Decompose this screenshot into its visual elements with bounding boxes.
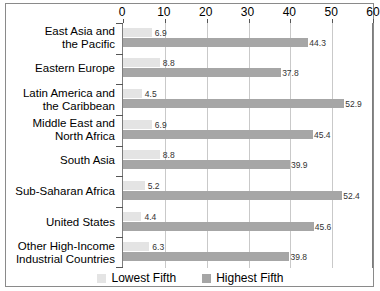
bar-row: South Asia8.839.9 <box>6 146 375 177</box>
x-axis-labels: 0102030405060 <box>6 4 375 22</box>
category-label-line: North Africa <box>0 130 115 143</box>
bar-value-highest-fifth: 52.4 <box>343 192 360 201</box>
bar-pair: 6.339.8 <box>122 237 373 268</box>
bar-value-lowest-fifth: 4.5 <box>145 90 157 99</box>
bar-pair: 8.837.8 <box>122 54 373 85</box>
category-label-line: Other High-Income <box>0 240 115 253</box>
category-label-line: Latin America and <box>0 87 115 100</box>
bar-pair: 5.252.4 <box>122 176 373 207</box>
bar-rows: East Asia andthe Pacific6.944.3Eastern E… <box>6 23 375 268</box>
bar-value-lowest-fifth: 6.9 <box>155 29 167 38</box>
category-axis-tick <box>116 267 123 268</box>
bar-lowest-fifth <box>123 89 142 98</box>
bar-lowest-fifth <box>123 150 160 159</box>
bar-value-lowest-fifth: 5.2 <box>148 182 160 191</box>
legend-item[interactable]: Highest Fifth <box>202 272 283 285</box>
category-label-line: Sub-Saharan Africa <box>0 185 115 198</box>
category-label-line: Industrial Countries <box>0 253 115 266</box>
bar-value-highest-fifth: 45.6 <box>315 223 332 232</box>
bar-lowest-fifth <box>123 242 149 251</box>
bar-pair: 4.445.6 <box>122 207 373 238</box>
bar-pair: 6.945.4 <box>122 115 373 146</box>
category-label: East Asia andthe Pacific <box>0 25 115 51</box>
bar-value-lowest-fifth: 6.3 <box>152 243 164 252</box>
bar-highest-fifth <box>123 99 344 108</box>
category-label-line: United States <box>0 216 115 229</box>
x-axis-tick-label: 30 <box>241 5 254 19</box>
x-axis-tick-label: 50 <box>324 5 337 19</box>
category-label: United States <box>0 216 115 229</box>
bar-row: East Asia andthe Pacific6.944.3 <box>6 23 375 54</box>
category-label: Eastern Europe <box>0 62 115 75</box>
category-label: Middle East andNorth Africa <box>0 117 115 143</box>
bar-row: Sub-Saharan Africa5.252.4 <box>6 176 375 207</box>
category-label-line: East Asia and <box>0 25 115 38</box>
legend-swatch-icon <box>202 274 211 283</box>
bar-row: Middle East andNorth Africa6.945.4 <box>6 115 375 146</box>
bar-pair: 4.552.9 <box>122 84 373 115</box>
x-axis-tick-label: 0 <box>119 5 126 19</box>
bar-value-lowest-fifth: 8.8 <box>163 59 175 68</box>
bar-value-highest-fifth: 39.9 <box>291 161 308 170</box>
bar-value-highest-fifth: 52.9 <box>345 100 362 109</box>
bar-value-highest-fifth: 45.4 <box>314 131 331 140</box>
legend-label: Highest Fifth <box>216 272 283 285</box>
bar-highest-fifth <box>123 252 289 261</box>
chart-frame: 0102030405060 East Asia andthe Pacific6.… <box>5 3 374 287</box>
bar-lowest-fifth <box>123 58 160 67</box>
x-axis-tick-label: 40 <box>283 5 296 19</box>
category-label: South Asia <box>0 154 115 167</box>
bar-value-highest-fifth: 37.8 <box>282 69 299 78</box>
bar-highest-fifth <box>123 68 281 77</box>
legend-label: Lowest Fifth <box>111 272 176 285</box>
legend-item[interactable]: Lowest Fifth <box>97 272 176 285</box>
bar-value-lowest-fifth: 8.8 <box>163 151 175 160</box>
bar-value-highest-fifth: 44.3 <box>309 39 326 48</box>
bar-value-lowest-fifth: 4.4 <box>144 213 156 222</box>
x-axis-tick-label: 20 <box>199 5 212 19</box>
bar-pair: 6.944.3 <box>122 23 373 54</box>
category-label-line: Eastern Europe <box>0 62 115 75</box>
x-axis-tick-label: 10 <box>157 5 170 19</box>
bar-highest-fifth <box>123 222 314 231</box>
category-label-line: the Pacific <box>0 38 115 51</box>
bar-row: United States4.445.6 <box>6 207 375 238</box>
category-label-line: the Caribbean <box>0 100 115 113</box>
bar-highest-fifth <box>123 130 313 139</box>
bar-value-highest-fifth: 39.8 <box>290 253 307 262</box>
bar-row: Other High-IncomeIndustrial Countries6.3… <box>6 237 375 268</box>
bar-pair: 8.839.9 <box>122 146 373 177</box>
bar-value-lowest-fifth: 6.9 <box>155 121 167 130</box>
bar-lowest-fifth <box>123 181 145 190</box>
bar-highest-fifth <box>123 191 342 200</box>
category-label-line: Middle East and <box>0 117 115 130</box>
bar-row: Eastern Europe8.837.8 <box>6 54 375 85</box>
category-label-line: South Asia <box>0 154 115 167</box>
category-label: Other High-IncomeIndustrial Countries <box>0 240 115 266</box>
bar-lowest-fifth <box>123 212 141 221</box>
bar-row: Latin America andthe Caribbean4.552.9 <box>6 84 375 115</box>
chart-legend: Lowest FifthHighest Fifth <box>6 270 375 286</box>
bar-highest-fifth <box>123 160 290 169</box>
category-label: Sub-Saharan Africa <box>0 185 115 198</box>
category-label: Latin America andthe Caribbean <box>0 87 115 113</box>
bar-highest-fifth <box>123 38 308 47</box>
x-axis-tick-label: 60 <box>366 5 379 19</box>
bar-lowest-fifth <box>123 120 152 129</box>
bar-lowest-fifth <box>123 28 152 37</box>
legend-swatch-icon <box>97 274 106 283</box>
